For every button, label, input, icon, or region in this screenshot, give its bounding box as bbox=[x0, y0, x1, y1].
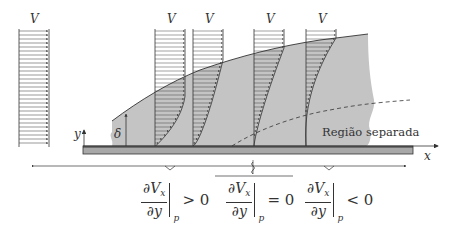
free-stream-velocity-label: V bbox=[30, 12, 40, 26]
separated-region-label: Região separada bbox=[322, 125, 420, 139]
delta-label: δ bbox=[114, 127, 121, 141]
profile-2-velocity-label: V bbox=[205, 12, 215, 26]
x-axis-label: x bbox=[424, 149, 431, 163]
boundary-layer-diagram: V V V V V δ y x Região separada ∂Vx∂yp> … bbox=[0, 0, 456, 236]
profile-3-velocity-label: V bbox=[266, 12, 276, 26]
condition-zero-gradient: ∂Vx∂yp= 0 bbox=[226, 181, 294, 219]
free-stream-profile bbox=[19, 29, 49, 147]
profile-4-velocity-label: V bbox=[318, 12, 328, 26]
condition-negative-gradient: ∂Vx∂yp< 0 bbox=[305, 181, 373, 219]
profile-1-velocity-label: V bbox=[167, 12, 177, 26]
y-axis-label: y bbox=[73, 127, 81, 141]
condition-positive-gradient: ∂Vx∂yp> 0 bbox=[141, 181, 209, 219]
